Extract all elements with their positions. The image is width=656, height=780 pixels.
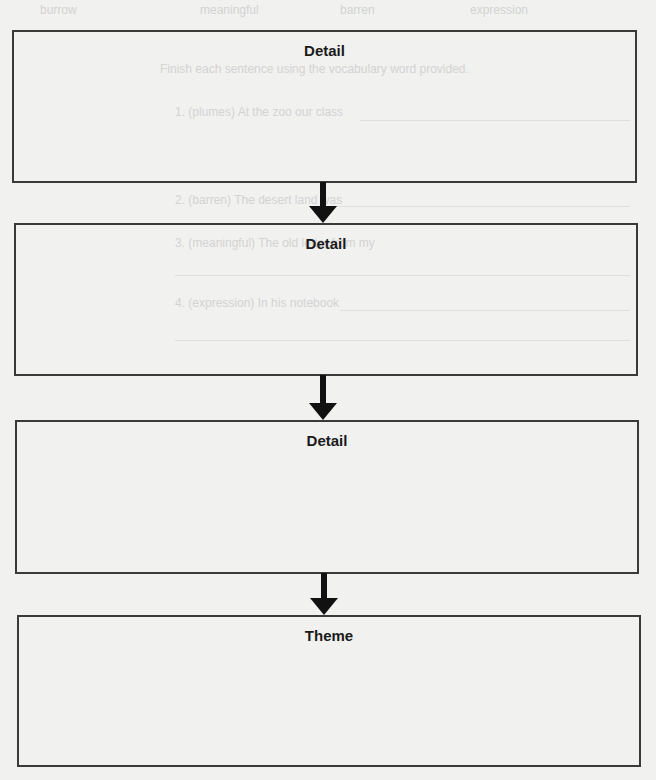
ghost-word: barren xyxy=(340,3,375,17)
ghost-word: burrow xyxy=(40,3,77,17)
detail-box-3[interactable]: Detail xyxy=(15,420,639,574)
box-title: Detail xyxy=(14,42,635,59)
box-title: Detail xyxy=(16,235,636,252)
ghost-word: meaningful xyxy=(200,3,259,17)
down-arrow-icon xyxy=(309,375,339,420)
ghost-word: expression xyxy=(470,3,528,17)
detail-box-2[interactable]: Detail xyxy=(14,223,638,376)
box-title: Theme xyxy=(19,627,639,644)
detail-box-1[interactable]: Detail xyxy=(12,30,637,183)
box-title: Detail xyxy=(17,432,637,449)
down-arrow-icon xyxy=(309,182,339,223)
theme-box[interactable]: Theme xyxy=(17,615,641,767)
down-arrow-icon xyxy=(310,573,340,615)
